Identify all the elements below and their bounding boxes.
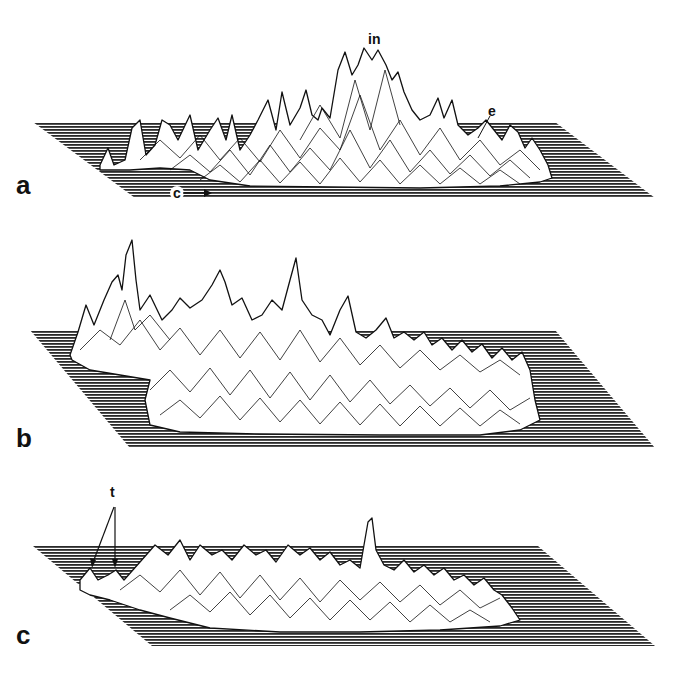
surface-plot-a (0, 0, 684, 220)
panel-c: c t (0, 450, 684, 679)
annotation-t: t (110, 485, 115, 499)
panel-label-b: b (16, 425, 32, 451)
annotation-in: in (368, 32, 380, 46)
panel-label-a: a (16, 172, 30, 198)
peaks-outline (100, 48, 552, 188)
annotation-c: c (170, 186, 184, 200)
annotation-e: e (488, 104, 496, 118)
panel-a: a in e c (0, 0, 684, 220)
surface-plot-c (0, 450, 684, 679)
surface-plot-b (0, 220, 684, 460)
panel-label-c: c (16, 622, 30, 648)
panel-b: b (0, 220, 684, 460)
